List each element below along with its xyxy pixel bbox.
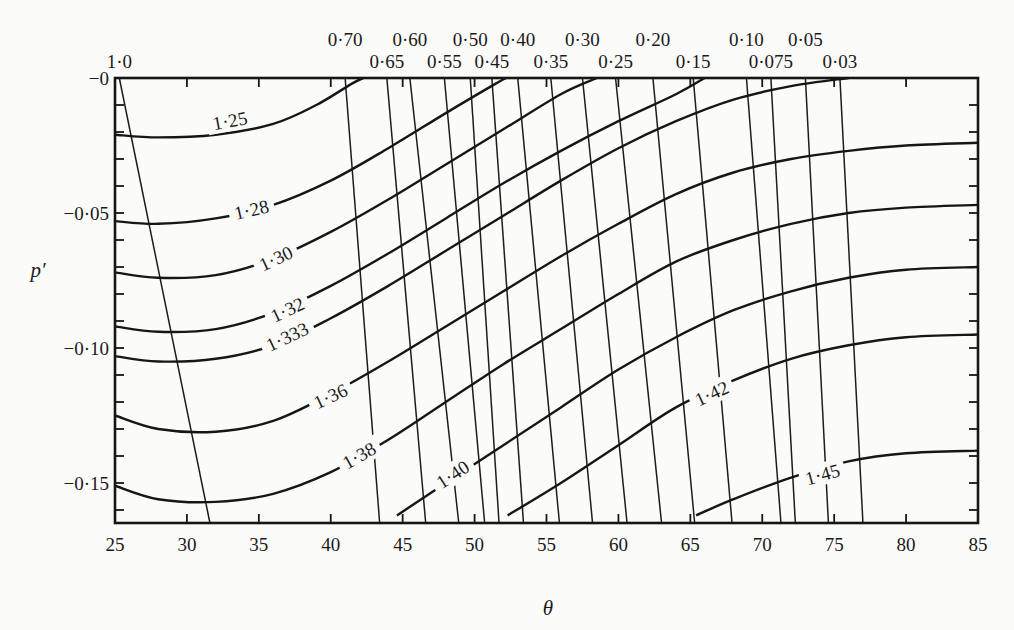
svg-text:1·28: 1·28	[232, 196, 271, 224]
curve-label: 1·28	[227, 193, 277, 225]
top-line-label: 0·05	[788, 29, 823, 50]
top-line-label: 0·03	[823, 51, 858, 72]
svg-text:1·45: 1·45	[803, 460, 842, 490]
x-tick-label: 45	[393, 534, 412, 555]
top-line-label: 0·45	[474, 51, 509, 72]
vertical-line	[805, 78, 828, 523]
top-line-label: 1·0	[107, 51, 132, 72]
top-line-label: 0·70	[328, 29, 363, 50]
curve-1·28	[115, 78, 506, 224]
top-line-label: 0·40	[500, 29, 535, 50]
x-tick-label: 80	[897, 534, 916, 555]
x-tick-label: 50	[465, 534, 484, 555]
top-line-label: 0·65	[369, 51, 404, 72]
top-line-label: 0·20	[636, 29, 671, 50]
x-tick-label: 85	[969, 534, 988, 555]
vertical-line	[693, 78, 732, 523]
top-line-label: 0·50	[453, 29, 488, 50]
curve-1·42	[508, 335, 978, 516]
chart-canvas: 1·251·281·301·321·3331·361·381·401·421·4…	[0, 0, 1014, 630]
y-tick-label: −0·15	[63, 473, 109, 494]
vertical-line	[840, 78, 863, 523]
top-line-label: 0·10	[729, 29, 764, 50]
x-tick-label: 55	[537, 534, 556, 555]
x-tick-label: 40	[321, 534, 340, 555]
curve-label: 1·45	[797, 457, 847, 491]
x-tick-label: 35	[249, 534, 268, 555]
y-axis-title: p′	[28, 258, 46, 282]
curve-label: 1·38	[334, 434, 385, 476]
top-line-label: 0·35	[533, 51, 568, 72]
x-tick-label: 75	[825, 534, 844, 555]
vertical-line	[653, 78, 695, 523]
vertical-line	[410, 78, 459, 523]
top-line-labels: 1·00·700·650·600·550·500·450·400·350·300…	[107, 29, 858, 72]
x-tick-label: 60	[609, 534, 628, 555]
vertical-line	[616, 78, 662, 523]
y-tick-label: −0·05	[63, 203, 109, 224]
curve-family	[115, 78, 978, 515]
vertical-line	[119, 78, 210, 523]
vertical-line	[492, 78, 524, 523]
x-axis-title: θ	[543, 596, 553, 620]
top-line-label: 0·075	[749, 51, 793, 72]
vertical-line	[518, 78, 560, 523]
curve-1·30	[115, 78, 597, 278]
top-line-label: 0·60	[392, 29, 427, 50]
top-line-label: 0·30	[565, 29, 600, 50]
vertical-line	[771, 78, 795, 523]
x-tick-label: 70	[753, 534, 772, 555]
vertical-line	[582, 78, 627, 523]
top-line-label: 0·55	[427, 51, 462, 72]
top-line-label: 0·15	[676, 51, 711, 72]
y-axis: −0−0·05−0·10−0·15	[63, 68, 978, 510]
curve-label: 1·36	[305, 376, 356, 415]
x-tick-label: 65	[681, 534, 700, 555]
plot-frame	[115, 78, 978, 523]
x-tick-label: 25	[106, 534, 125, 555]
curve-label: 1·30	[250, 238, 301, 277]
x-tick-label: 30	[177, 534, 196, 555]
top-line-label: 0·25	[598, 51, 633, 72]
curve-label: 1·42	[686, 373, 737, 412]
y-tick-label: −0·10	[63, 338, 109, 359]
vertical-line-family	[119, 78, 863, 523]
